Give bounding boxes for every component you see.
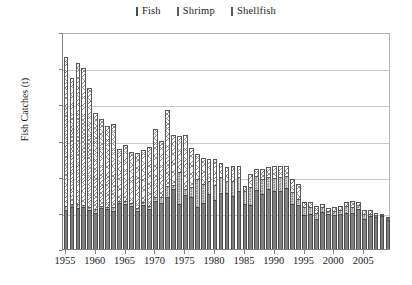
bar-segment-fish — [338, 214, 343, 249]
bar-1969 — [147, 147, 152, 249]
bar-2004 — [356, 202, 361, 249]
legend-swatch-shrimp — [177, 7, 179, 16]
bar-1978 — [201, 158, 206, 249]
bar-segment-fish — [195, 207, 200, 249]
bar-segment-shrimp — [243, 191, 248, 204]
bar-segment-shellfish — [99, 119, 104, 206]
bar-1983 — [231, 166, 236, 249]
bar-1998 — [320, 204, 325, 249]
bar-segment-shellfish — [129, 152, 134, 203]
bar-1990 — [272, 166, 277, 249]
bar-segment-shellfish — [165, 110, 170, 186]
bar-segment-shrimp — [231, 181, 236, 195]
legend-item-shellfish: Shellfish — [231, 6, 276, 17]
bar-segment-shrimp — [201, 184, 206, 203]
bar-segment-shellfish — [153, 129, 158, 197]
bar-segment-shellfish — [231, 166, 236, 181]
bar-segment-shellfish — [278, 166, 283, 177]
bar-segment-fish — [225, 193, 230, 249]
bar-segment-shellfish — [147, 147, 152, 206]
x-tick-mark — [95, 250, 96, 254]
bar-segment-shrimp — [284, 176, 289, 189]
bar-1968 — [141, 150, 146, 249]
bar-segment-fish — [374, 217, 379, 249]
bar-segment-shrimp — [290, 192, 295, 204]
bar-segment-shellfish — [105, 126, 110, 206]
bar-segment-fish — [362, 219, 367, 249]
legend-item-fish: Fish — [136, 6, 161, 17]
bar-segment-shrimp — [266, 177, 271, 190]
bar-1966 — [129, 152, 134, 249]
bar-segment-shellfish — [284, 166, 289, 176]
bar-segment-shellfish — [111, 124, 116, 207]
bar-segment-fish — [117, 203, 122, 249]
bar-1974 — [177, 136, 182, 249]
bar-1958 — [81, 68, 86, 249]
bar-segment-fish — [284, 188, 289, 249]
bar-1959 — [87, 88, 92, 249]
legend-label-shrimp: Shrimp — [183, 6, 215, 17]
bar-segment-shellfish — [290, 179, 295, 192]
x-tick-mark — [65, 250, 66, 254]
bar-1971 — [159, 141, 164, 249]
bar-segment-fish — [368, 216, 373, 249]
bar-1995 — [302, 202, 307, 249]
bar-segment-fish — [105, 209, 110, 249]
bar-1989 — [266, 167, 271, 249]
bar-segment-fish — [159, 203, 164, 249]
bar-1965 — [123, 145, 128, 249]
bar-segment-shellfish — [183, 135, 188, 189]
bar-segment-shellfish — [64, 57, 69, 205]
bar-segment-shrimp — [189, 187, 194, 197]
bar-1957 — [76, 63, 81, 249]
bar-1967 — [135, 153, 140, 249]
x-tick-mark — [363, 250, 364, 254]
bar-segment-shellfish — [201, 158, 206, 184]
bar-1963 — [111, 124, 116, 249]
bar-segment-fish — [171, 189, 176, 249]
bar-1955 — [64, 57, 69, 249]
bar-segment-fish — [153, 201, 158, 249]
bar-1980 — [213, 159, 218, 249]
bar-segment-fish — [302, 215, 307, 249]
bar-1993 — [290, 179, 295, 249]
bar-2003 — [350, 201, 355, 249]
bar-segment-fish — [272, 191, 277, 249]
bar-segment-shellfish — [272, 166, 277, 178]
bar-segment-fish — [308, 214, 313, 249]
x-tick-mark — [244, 250, 245, 254]
bar-segment-fish — [243, 204, 248, 249]
legend-swatch-fish — [136, 7, 138, 16]
x-tick-mark — [154, 250, 155, 254]
bar-segment-fish — [70, 207, 75, 249]
bar-1973 — [171, 135, 176, 249]
bar-segment-fish — [87, 210, 92, 249]
bar-1999 — [326, 208, 331, 249]
bar-1979 — [207, 159, 212, 249]
bar-segment-fish — [332, 215, 337, 249]
bar-segment-shellfish — [93, 113, 98, 209]
bar-segment-shellfish — [189, 148, 194, 187]
bar-segment-shrimp — [225, 181, 230, 193]
bar-segment-fish — [380, 216, 385, 249]
bar-1987 — [254, 169, 259, 249]
bar-1991 — [278, 166, 283, 249]
bar-segment-shellfish — [213, 159, 218, 185]
bar-segment-shrimp — [165, 186, 170, 197]
bar-segment-fish — [213, 200, 218, 249]
bar-1964 — [117, 149, 122, 249]
bar-segment-shrimp — [213, 185, 218, 200]
bar-segment-fish — [219, 193, 224, 249]
bar-1986 — [248, 174, 253, 249]
bar-2006 — [368, 210, 373, 249]
bar-1981 — [219, 163, 224, 249]
bar-segment-shellfish — [296, 184, 301, 199]
bar-2007 — [374, 213, 379, 249]
bar-segment-fish — [99, 208, 104, 249]
bar-segment-shellfish — [260, 169, 265, 179]
bar-segment-fish — [266, 189, 271, 249]
bar-segment-fish — [356, 209, 361, 249]
bar-1997 — [314, 206, 319, 249]
bar-segment-shellfish — [171, 135, 176, 185]
bar-2002 — [344, 202, 349, 249]
